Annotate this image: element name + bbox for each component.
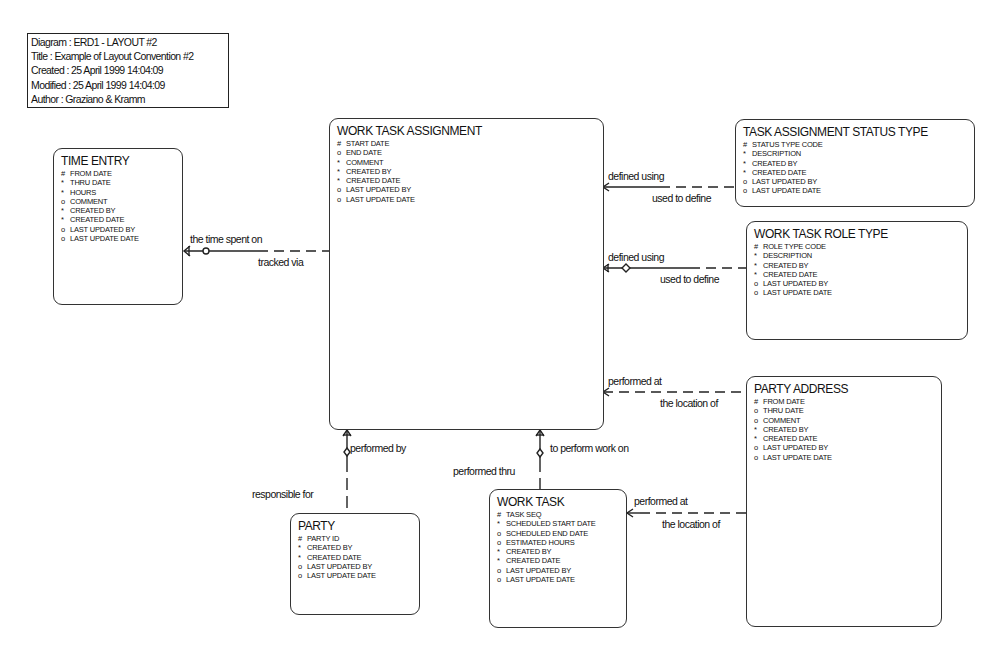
rel-address-performed-at: performed at: [608, 375, 662, 387]
attribute-name: ROLE TYPE CODE: [763, 242, 826, 251]
rel-status-used-to-define: used to define: [652, 192, 711, 204]
attribute-name: CREATED BY: [763, 425, 808, 434]
rel-task-to-perform-work-on: to perform work on: [550, 442, 629, 454]
attribute-row: *CREATED DATE: [61, 215, 175, 224]
attribute-marker: *: [754, 251, 763, 260]
attribute-marker: o: [754, 279, 763, 288]
attribute-marker: #: [61, 169, 70, 178]
attribute-name: LAST UPDATE DATE: [70, 234, 139, 243]
attribute-row: *CREATED BY: [61, 206, 175, 215]
attribute-list: #TASK SEQ*SCHEDULED START DATEoSCHEDULED…: [497, 510, 619, 584]
rel-time-spent-on: the time spent on: [190, 233, 262, 245]
attribute-name: FROM DATE: [763, 397, 805, 406]
attribute-name: LAST UPDATE DATE: [346, 195, 415, 204]
attribute-marker: *: [337, 176, 346, 185]
attribute-name: LAST UPDATED BY: [346, 185, 411, 194]
attribute-row: *SCHEDULED START DATE: [497, 519, 619, 528]
attribute-name: CREATED DATE: [763, 434, 817, 443]
rel-party-responsible-for: responsible for: [252, 488, 313, 500]
attribute-marker: o: [743, 177, 752, 186]
attribute-name: LAST UPDATED BY: [506, 566, 571, 575]
attribute-marker: o: [298, 562, 307, 571]
attribute-name: COMMENT: [763, 416, 800, 425]
attribute-marker: o: [754, 416, 763, 425]
entity-work-task[interactable]: WORK TASK #TASK SEQ*SCHEDULED START DATE…: [489, 489, 627, 628]
attribute-name: LAST UPDATED BY: [763, 279, 828, 288]
attribute-name: SCHEDULED END DATE: [506, 529, 588, 538]
attribute-row: oEND DATE: [337, 148, 596, 157]
attribute-name: CREATED DATE: [506, 556, 560, 565]
attribute-marker: *: [743, 149, 752, 158]
attribute-name: CREATED DATE: [752, 168, 806, 177]
attribute-row: oLAST UPDATE DATE: [61, 234, 175, 243]
attribute-name: LAST UPDATE DATE: [763, 288, 832, 297]
attribute-marker: o: [497, 566, 506, 575]
attribute-row: oLAST UPDATE DATE: [337, 195, 596, 204]
entity-title: WORK TASK ROLE TYPE: [754, 228, 960, 241]
rel-worktask-location-of: the location of: [662, 518, 720, 530]
attribute-row: oTHRU DATE: [754, 406, 934, 415]
attribute-name: CREATED DATE: [70, 215, 124, 224]
attribute-name: CREATED BY: [752, 159, 797, 168]
attribute-marker: o: [754, 453, 763, 462]
entity-work-task-role-type[interactable]: WORK TASK ROLE TYPE #ROLE TYPE CODE*DESC…: [746, 221, 968, 340]
entity-party[interactable]: PARTY #PARTY ID*CREATED BY*CREATED DATEo…: [290, 513, 420, 615]
attribute-marker: #: [754, 242, 763, 251]
entity-task-assignment-status-type[interactable]: TASK ASSIGNMENT STATUS TYPE #STATUS TYPE…: [735, 119, 975, 207]
rel-status-defined-using: defined using: [608, 170, 664, 182]
attribute-row: oESTIMATED HOURS: [497, 538, 619, 547]
attribute-row: *CREATED BY: [754, 425, 934, 434]
attribute-name: LAST UPDATE DATE: [506, 575, 575, 584]
attribute-name: LAST UPDATED BY: [752, 177, 817, 186]
attribute-name: HOURS: [70, 188, 96, 197]
attribute-name: CREATED DATE: [346, 176, 400, 185]
attribute-list: #FROM DATEoTHRU DATEoCOMMENT*CREATED BY*…: [754, 397, 934, 462]
entity-party-address[interactable]: PARTY ADDRESS #FROM DATEoTHRU DATEoCOMME…: [746, 376, 942, 627]
attribute-list: #FROM DATE*THRU DATE*HOURSoCOMMENT*CREAT…: [61, 169, 175, 243]
diagram-legend: Diagram : ERD1 - LAYOUT #2 Title : Examp…: [27, 33, 229, 108]
attribute-name: PARTY ID: [307, 534, 339, 543]
entity-title: TASK ASSIGNMENT STATUS TYPE: [743, 126, 967, 139]
attribute-name: CREATED BY: [346, 167, 391, 176]
attribute-marker: o: [497, 529, 506, 538]
entity-title: PARTY: [298, 520, 412, 533]
attribute-row: *CREATED BY: [337, 167, 596, 176]
attribute-row: #ROLE TYPE CODE: [754, 242, 960, 251]
attribute-row: #FROM DATE: [61, 169, 175, 178]
entity-work-task-assignment[interactable]: WORK TASK ASSIGNMENT #START DATEoEND DAT…: [329, 118, 604, 430]
attribute-row: *CREATED DATE: [298, 553, 412, 562]
legend-modified: Modified : 25 April 1999 14:04:09: [31, 78, 225, 92]
attribute-marker: o: [754, 406, 763, 415]
attribute-marker: o: [754, 288, 763, 297]
attribute-name: ESTIMATED HOURS: [506, 538, 575, 547]
attribute-row: *CREATED BY: [754, 261, 960, 270]
attribute-row: oLAST UPDATE DATE: [497, 575, 619, 584]
attribute-list: #START DATEoEND DATE*COMMENT*CREATED BY*…: [337, 139, 596, 204]
attribute-name: CREATED DATE: [307, 553, 361, 562]
attribute-row: oCOMMENT: [754, 416, 934, 425]
attribute-name: DESCRIPTION: [752, 149, 801, 158]
attribute-row: #STATUS TYPE CODE: [743, 140, 967, 149]
attribute-row: oLAST UPDATED BY: [497, 566, 619, 575]
entity-title: WORK TASK: [497, 496, 619, 509]
attribute-marker: o: [298, 571, 307, 580]
attribute-row: oLAST UPDATED BY: [754, 279, 960, 288]
attribute-name: DESCRIPTION: [763, 251, 812, 260]
attribute-marker: *: [497, 556, 506, 565]
attribute-marker: *: [754, 261, 763, 270]
entity-time-entry[interactable]: TIME ENTRY #FROM DATE*THRU DATE*HOURSoCO…: [53, 148, 183, 305]
attribute-marker: *: [337, 158, 346, 167]
attribute-row: #FROM DATE: [754, 397, 934, 406]
attribute-row: *THRU DATE: [61, 178, 175, 187]
entity-title: PARTY ADDRESS: [754, 383, 934, 396]
rel-task-performed-thru: performed thru: [453, 465, 515, 477]
attribute-row: #START DATE: [337, 139, 596, 148]
attribute-marker: o: [743, 186, 752, 195]
attribute-name: COMMENT: [70, 197, 107, 206]
attribute-marker: *: [743, 168, 752, 177]
attribute-marker: #: [337, 139, 346, 148]
attribute-row: oLAST UPDATE DATE: [754, 453, 934, 462]
attribute-row: oLAST UPDATED BY: [61, 225, 175, 234]
rel-tracked-via: tracked via: [258, 256, 303, 268]
attribute-name: LAST UPDATE DATE: [752, 186, 821, 195]
